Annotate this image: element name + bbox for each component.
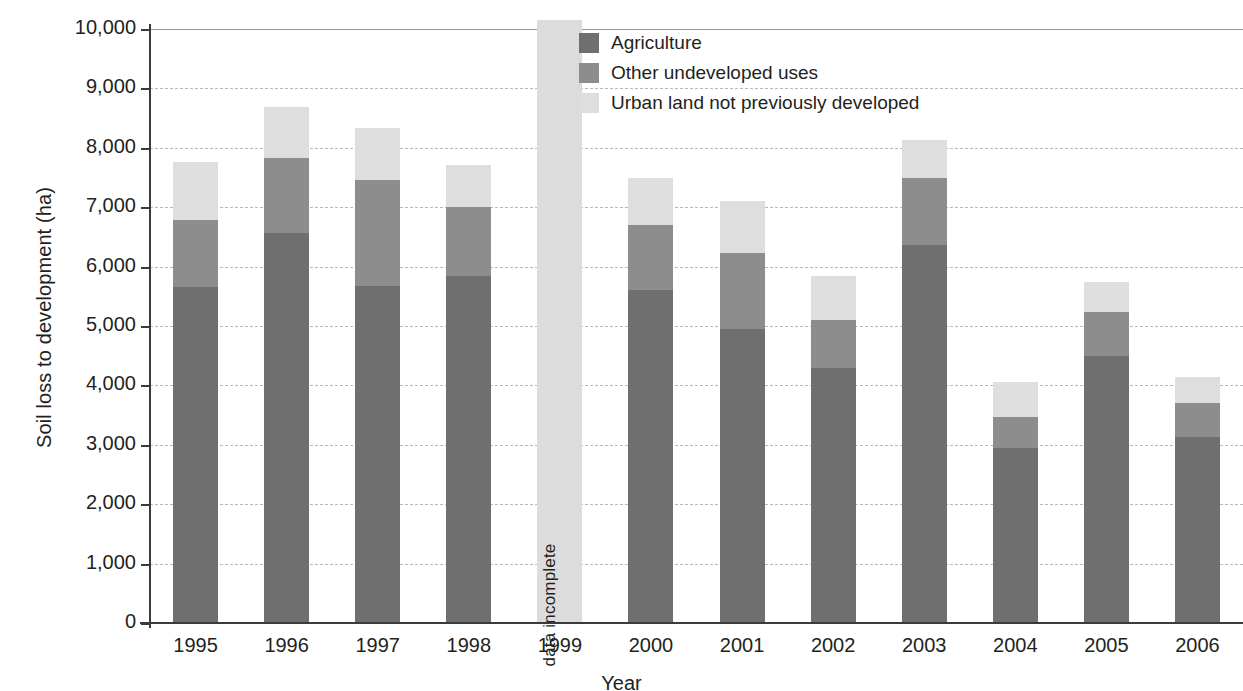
bar-segment-other-undeveloped-uses: [902, 178, 947, 245]
gridline: [150, 504, 1243, 505]
x-axis-tick-label: 1999: [511, 634, 608, 657]
x-axis-tick-label: 2003: [876, 634, 973, 657]
soil-loss-stacked-bar-chart: Soil loss to development (ha) 01,0002,00…: [0, 0, 1243, 691]
bar-segment-other-undeveloped-uses: [993, 417, 1038, 448]
y-axis-tick-label: 10,000: [16, 16, 136, 39]
legend-swatch-icon: [579, 63, 599, 83]
bar-segment-urban-land-not-previously-developed: [264, 107, 309, 157]
y-axis-tick-label: 1,000: [16, 551, 136, 574]
y-axis-tick-label: 3,000: [16, 432, 136, 455]
bar-segment-agriculture: [993, 448, 1038, 623]
bar-segment-data-incomplete: data incomplete: [537, 20, 582, 623]
y-axis-tick-label: 4,000: [16, 372, 136, 395]
x-axis-tick-label: 1997: [329, 634, 426, 657]
bar-1999: data incomplete: [537, 20, 582, 623]
gridline: [150, 148, 1243, 149]
bar-segment-urban-land-not-previously-developed: [1084, 282, 1129, 312]
legend-item: Other undeveloped uses: [579, 60, 919, 85]
x-axis-title: Year: [0, 672, 1243, 691]
bar-2002: [811, 276, 856, 623]
bar-segment-urban-land-not-previously-developed: [811, 276, 856, 320]
y-axis-line: [149, 24, 151, 628]
bar-segment-urban-land-not-previously-developed: [993, 382, 1038, 416]
x-axis-tick-labels: 1995199619971998199920002001200220032004…: [150, 634, 1243, 664]
y-axis-tick-label: 8,000: [16, 135, 136, 158]
bar-segment-other-undeveloped-uses: [628, 225, 673, 290]
x-axis-tick-label: 2005: [1058, 634, 1155, 657]
bar-segment-other-undeveloped-uses: [446, 207, 491, 276]
x-axis-tick-label: 2002: [785, 634, 882, 657]
bar-segment-urban-land-not-previously-developed: [1175, 377, 1220, 404]
x-axis-tick-label: 1996: [238, 634, 335, 657]
bar-segment-other-undeveloped-uses: [355, 180, 400, 286]
gridline: [150, 445, 1243, 446]
bar-segment-agriculture: [902, 245, 947, 623]
bar-segment-other-undeveloped-uses: [173, 220, 218, 287]
bar-1998: [446, 165, 491, 623]
gridline: [150, 564, 1243, 565]
x-axis-tick-label: 1998: [420, 634, 517, 657]
x-axis-tick-label: 2001: [694, 634, 791, 657]
y-axis-tick-label: 0: [16, 610, 136, 633]
bar-segment-other-undeveloped-uses: [264, 158, 309, 233]
chart-legend: AgricultureOther undeveloped usesUrban l…: [579, 30, 919, 120]
bar-1996: [264, 107, 309, 623]
x-axis-tick-label: 2000: [602, 634, 699, 657]
bar-segment-agriculture: [1084, 356, 1129, 623]
y-axis-tick-label: 5,000: [16, 313, 136, 336]
bar-segment-agriculture: [446, 276, 491, 623]
y-axis-tick-label: 2,000: [16, 491, 136, 514]
bar-segment-urban-land-not-previously-developed: [720, 201, 765, 253]
bar-segment-agriculture: [173, 287, 218, 623]
bar-segment-agriculture: [355, 286, 400, 623]
bar-segment-urban-land-not-previously-developed: [446, 165, 491, 207]
bar-2003: [902, 140, 947, 623]
bar-segment-other-undeveloped-uses: [1084, 312, 1129, 355]
bar-2000: [628, 178, 673, 623]
bar-segment-agriculture: [720, 329, 765, 623]
bar-segment-urban-land-not-previously-developed: [355, 128, 400, 181]
bar-segment-urban-land-not-previously-developed: [628, 178, 673, 225]
y-axis-tick-label: 7,000: [16, 194, 136, 217]
legend-label: Agriculture: [611, 32, 702, 54]
legend-item: Urban land not previously developed: [579, 90, 919, 115]
bar-segment-other-undeveloped-uses: [811, 320, 856, 368]
bar-1995: [173, 162, 218, 623]
x-axis-tick-label: 1995: [147, 634, 244, 657]
bar-1997: [355, 128, 400, 623]
bar-segment-agriculture: [811, 368, 856, 623]
bar-2006: [1175, 377, 1220, 623]
x-axis-tick-label: 2004: [967, 634, 1064, 657]
gridline: [150, 385, 1243, 386]
bar-2005: [1084, 282, 1129, 623]
y-axis-tick-label: 9,000: [16, 75, 136, 98]
bar-segment-agriculture: [1175, 437, 1220, 623]
gridline: [150, 207, 1243, 208]
legend-swatch-icon: [579, 33, 599, 53]
bar-segment-other-undeveloped-uses: [1175, 403, 1220, 437]
legend-label: Other undeveloped uses: [611, 62, 818, 84]
bar-2001: [720, 201, 765, 623]
bar-segment-other-undeveloped-uses: [720, 253, 765, 329]
gridline: [150, 267, 1243, 268]
bar-segment-urban-land-not-previously-developed: [173, 162, 218, 220]
bar-2004: [993, 382, 1038, 623]
bar-segment-agriculture: [264, 233, 309, 623]
legend-label: Urban land not previously developed: [611, 92, 919, 114]
x-axis-tick-label: 2006: [1149, 634, 1243, 657]
bar-segment-agriculture: [628, 290, 673, 623]
bar-segment-urban-land-not-previously-developed: [902, 140, 947, 178]
y-axis-tick-label: 6,000: [16, 254, 136, 277]
legend-item: Agriculture: [579, 30, 919, 55]
legend-swatch-icon: [579, 93, 599, 113]
x-axis-line: [140, 622, 1243, 624]
gridline: [150, 326, 1243, 327]
